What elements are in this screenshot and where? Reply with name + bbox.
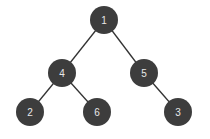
node-label: 5 (141, 68, 147, 79)
nodes: 145263 (16, 6, 192, 126)
node-label: 2 (27, 107, 33, 118)
tree-node-4: 4 (48, 59, 76, 87)
tree-node-5: 5 (130, 59, 158, 87)
tree-node-3: 3 (164, 98, 192, 126)
tree-node-6: 6 (83, 98, 111, 126)
node-label: 3 (175, 107, 181, 118)
node-label: 1 (101, 15, 107, 26)
node-label: 6 (94, 107, 100, 118)
tree-node-1: 1 (90, 6, 118, 34)
node-label: 4 (59, 68, 65, 79)
tree-node-2: 2 (16, 98, 44, 126)
binary-tree-diagram: 145263 (0, 0, 210, 139)
